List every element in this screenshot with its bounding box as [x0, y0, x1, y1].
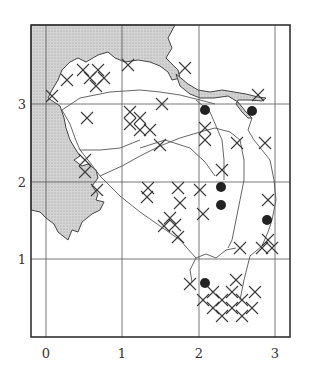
cross-marker — [256, 242, 268, 254]
cross-marker — [169, 219, 181, 231]
cross-marker — [249, 286, 261, 298]
cross-marker — [226, 302, 238, 314]
cross-marker — [216, 164, 228, 176]
land-region-west — [31, 25, 180, 240]
cross-marker — [61, 74, 73, 86]
x-tick-label: 0 — [42, 346, 50, 361]
cross-marker — [216, 294, 228, 306]
y-tick-label: 1 — [18, 252, 26, 267]
cross-marker — [207, 286, 219, 298]
cross-marker — [262, 194, 274, 206]
cross-marker — [259, 137, 271, 149]
cross-marker — [179, 62, 191, 74]
cross-marker — [246, 302, 258, 314]
x-tick-label: 2 — [195, 346, 203, 361]
dot-marker — [216, 200, 226, 210]
cross-marker — [207, 302, 219, 314]
cross-marker — [90, 80, 102, 92]
cross-marker — [164, 212, 176, 224]
cross-marker — [84, 72, 96, 84]
dot-marker — [262, 215, 272, 225]
cross-marker — [199, 122, 211, 134]
cross-marker — [236, 310, 248, 322]
cross-marker — [154, 139, 166, 151]
cross-marker — [216, 310, 228, 322]
cross-marker — [77, 64, 89, 76]
cross-marker — [184, 278, 196, 290]
dot-markers — [200, 105, 272, 288]
dot-marker — [247, 106, 257, 116]
cross-marker — [81, 112, 93, 124]
cross-marker — [144, 124, 156, 136]
cross-marker — [141, 191, 153, 203]
x-axis-ticks: 0123 — [42, 346, 279, 361]
cross-marker — [172, 231, 184, 243]
grid-map: 0123 321 — [0, 0, 310, 380]
cross-marker — [194, 184, 206, 196]
y-axis-ticks: 321 — [18, 97, 26, 267]
dot-marker — [200, 278, 210, 288]
cross-marker — [226, 286, 238, 298]
cross-marker — [236, 294, 248, 306]
cross-marker — [172, 182, 184, 194]
cross-marker — [231, 137, 243, 149]
x-tick-label: 1 — [118, 346, 126, 361]
cross-marker — [199, 134, 211, 146]
x-tick-label: 3 — [271, 346, 279, 361]
cross-marker — [174, 197, 186, 209]
y-tick-label: 2 — [18, 175, 26, 190]
dot-marker — [216, 182, 226, 192]
dot-marker — [200, 105, 210, 115]
y-tick-label: 3 — [18, 97, 26, 112]
cross-marker — [230, 274, 242, 286]
